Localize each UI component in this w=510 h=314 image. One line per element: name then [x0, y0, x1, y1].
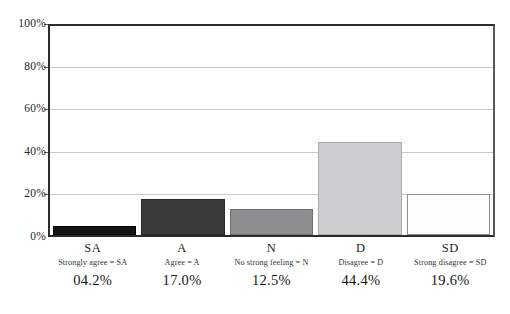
- category-value-d: 44.4%: [316, 270, 405, 290]
- bar-sa: [53, 226, 136, 235]
- category-code-d: D: [316, 241, 405, 256]
- label-col-sd: SD Strong disagree = SD 19.6%: [406, 241, 495, 290]
- category-value-sd: 19.6%: [406, 270, 495, 290]
- category-code-sd: SD: [406, 241, 495, 256]
- bar-slot-sa: [50, 26, 139, 235]
- category-value-sa: 04.2%: [48, 270, 137, 290]
- category-legend-d: Disagree = D: [316, 256, 405, 270]
- y-tick-label-80: 80%: [4, 61, 46, 73]
- bar-sd: [407, 194, 490, 235]
- bar-slot-n: [227, 26, 316, 235]
- label-col-n: N No strong feeling = N 12.5%: [227, 241, 316, 290]
- y-tick-label-20: 20%: [4, 188, 46, 200]
- category-legend-a: Agree = A: [137, 256, 226, 270]
- bar-slot-d: [316, 26, 405, 235]
- category-code-sa: SA: [48, 241, 137, 256]
- category-code-n: N: [227, 241, 316, 256]
- bar-chart: 100% 80% 60% 40% 20% 0%: [0, 0, 510, 314]
- category-code-a: A: [137, 241, 226, 256]
- bar-d: [318, 142, 401, 235]
- label-col-d: D Disagree = D 44.4%: [316, 241, 405, 290]
- bar-n: [230, 209, 313, 235]
- category-legend-sd: Strong disagree = SD: [406, 256, 495, 270]
- category-legend-n: No strong feeling = N: [227, 256, 316, 270]
- y-tick-label-40: 40%: [4, 146, 46, 158]
- bars-layer: [50, 26, 493, 235]
- label-col-a: A Agree = A 17.0%: [137, 241, 226, 290]
- category-legend-sa: Strongly agree = SA: [48, 256, 137, 270]
- category-labels: SA Strongly agree = SA 04.2% A Agree = A…: [48, 241, 495, 311]
- y-tick-label-60: 60%: [4, 103, 46, 115]
- category-value-a: 17.0%: [137, 270, 226, 290]
- label-col-sa: SA Strongly agree = SA 04.2%: [48, 241, 137, 290]
- bar-slot-sd: [404, 26, 493, 235]
- y-tick-label-0: 0%: [4, 231, 46, 243]
- y-axis: 100% 80% 60% 40% 20% 0%: [0, 24, 46, 237]
- bar-a: [141, 199, 224, 235]
- category-value-n: 12.5%: [227, 270, 316, 290]
- bar-slot-a: [139, 26, 228, 235]
- y-tick-label-100: 100%: [4, 18, 46, 30]
